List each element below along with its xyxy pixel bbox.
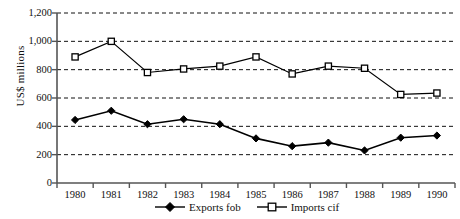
data-point-square: [181, 66, 187, 72]
chart-figure: US$ millions 02004006008001,0001,200 198…: [0, 0, 460, 219]
data-point-square: [398, 91, 404, 97]
legend-label-imports: Imports cif: [291, 202, 340, 213]
series-exports-fob: [71, 107, 440, 154]
filled-diamond-marker-icon: [155, 201, 185, 213]
data-series-layer: [71, 38, 440, 154]
data-point-square: [289, 71, 295, 77]
data-point-square: [361, 65, 367, 71]
x-tick-label: 1983: [164, 190, 204, 201]
x-tick-label: 1988: [345, 190, 385, 201]
data-point-diamond: [361, 147, 368, 154]
data-point-diamond: [108, 107, 115, 114]
data-point-diamond: [397, 134, 404, 141]
data-point-square: [217, 63, 223, 69]
series-line: [75, 41, 437, 94]
legend-item-imports[interactable]: Imports cif: [257, 201, 340, 213]
gridlines: [57, 13, 455, 155]
data-point-square: [72, 54, 78, 60]
data-point-diamond: [216, 121, 223, 128]
x-tick-label: 1980: [55, 190, 95, 201]
data-point-square: [325, 63, 331, 69]
data-point-square: [434, 90, 440, 96]
x-tick-label: 1986: [272, 190, 312, 201]
x-tick-label: 1985: [236, 190, 276, 201]
x-tick-label: 1987: [308, 190, 348, 201]
data-point-square: [108, 38, 114, 44]
plot-area: [0, 0, 460, 219]
series-line: [75, 111, 437, 151]
data-point-diamond: [71, 116, 78, 123]
data-point-diamond: [252, 135, 259, 142]
x-tick-label: 1990: [417, 190, 457, 201]
data-point-square: [144, 69, 150, 75]
chart-legend: Exports fob Imports cif: [155, 201, 339, 213]
x-tick-label: 1982: [127, 190, 167, 201]
x-tick-label: 1989: [381, 190, 421, 201]
legend-label-exports: Exports fob: [189, 202, 241, 213]
data-point-diamond: [289, 143, 296, 150]
data-point-diamond: [433, 132, 440, 139]
x-tick-label: 1981: [91, 190, 131, 201]
data-point-diamond: [180, 116, 187, 123]
data-point-diamond: [325, 139, 332, 146]
legend-item-exports[interactable]: Exports fob: [155, 201, 241, 213]
series-imports-cif: [72, 38, 440, 97]
x-tick-label: 1984: [200, 190, 240, 201]
open-square-marker-icon: [257, 201, 287, 213]
data-point-square: [253, 54, 259, 60]
